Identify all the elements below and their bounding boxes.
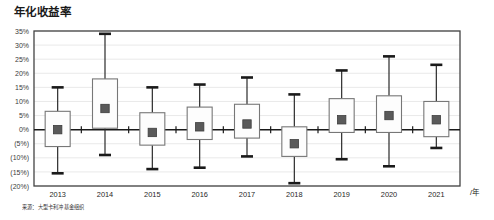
boxplot-2014[interactable] xyxy=(93,34,118,155)
boxplot-2020[interactable] xyxy=(377,56,402,166)
y-axis-tick-label: 25% xyxy=(15,56,29,63)
y-axis-tick-label: 20% xyxy=(15,70,29,77)
median-marker xyxy=(385,111,393,119)
median-marker xyxy=(101,104,109,112)
boxplot-2018[interactable] xyxy=(282,94,307,183)
chart-figure: 年化收益率 35%30%25%20%15%10%5%0%(5%)(10%)(15… xyxy=(0,0,494,220)
boxplot-2016[interactable] xyxy=(187,85,212,168)
y-axis-tick-label: 5% xyxy=(19,112,29,119)
boxplot-canvas: 35%30%25%20%15%10%5%0%(5%)(10%)(15%)(20%… xyxy=(0,18,494,198)
boxplot-2021[interactable] xyxy=(424,65,449,148)
y-axis-tick-label: (10%) xyxy=(10,154,29,162)
y-axis-tick-label: (15%) xyxy=(10,169,29,177)
x-axis-tick-label: 2015 xyxy=(144,190,160,198)
boxplot-2019[interactable] xyxy=(329,70,354,159)
median-marker xyxy=(337,116,345,124)
y-axis-tick-label: 35% xyxy=(15,28,29,35)
y-axis-tick-label: 30% xyxy=(15,42,29,49)
x-axis-tick-label: 2019 xyxy=(333,190,349,198)
median-marker xyxy=(432,116,440,124)
x-axis-tick-label: 2021 xyxy=(428,190,444,198)
y-axis-tick-label: 10% xyxy=(15,98,29,105)
boxplot-2017[interactable] xyxy=(235,78,260,157)
page-title: 年化收益率 xyxy=(14,3,71,19)
y-axis-tick-label: 0% xyxy=(19,126,29,133)
source-note: 来源：大型卡利冲基金组织 xyxy=(22,202,84,210)
boxplot-2015[interactable] xyxy=(140,87,165,169)
x-axis-tick-label: 2016 xyxy=(191,190,207,198)
x-axis-tick-label: 2018 xyxy=(286,190,302,198)
x-axis-tick-label: 2014 xyxy=(97,190,113,198)
y-axis-tick-label: (20%) xyxy=(10,183,29,191)
y-axis-tick-label: 15% xyxy=(15,84,29,91)
x-axis-tick-label: 2013 xyxy=(49,190,65,198)
median-marker xyxy=(53,125,61,133)
x-axis-tick-label: 2017 xyxy=(239,190,255,198)
x-axis-tick-label: 2020 xyxy=(381,190,397,198)
median-marker xyxy=(243,120,251,128)
y-axis-tick-label: (5%) xyxy=(14,140,29,148)
median-marker xyxy=(148,128,156,136)
box-iqr[interactable] xyxy=(93,79,118,128)
boxplot-2013[interactable] xyxy=(45,87,70,173)
median-marker xyxy=(195,123,203,131)
median-marker xyxy=(290,140,298,148)
x-axis-unit-label: /年 xyxy=(470,186,479,197)
